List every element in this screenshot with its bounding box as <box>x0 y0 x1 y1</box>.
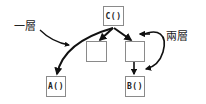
annotation-one-level: 一層 <box>14 17 36 33</box>
edge-c-to-mid-right <box>114 28 131 40</box>
annotation-arrow-one-level <box>40 30 69 45</box>
annotation-two-levels: 兩層 <box>166 27 188 43</box>
node-c: C() <box>103 6 124 26</box>
annotation-arrow-two-levels <box>142 32 164 69</box>
node-mid-right <box>125 41 145 62</box>
node-b: B() <box>125 76 145 97</box>
node-a: A() <box>46 76 66 97</box>
node-mid-left <box>86 41 107 62</box>
